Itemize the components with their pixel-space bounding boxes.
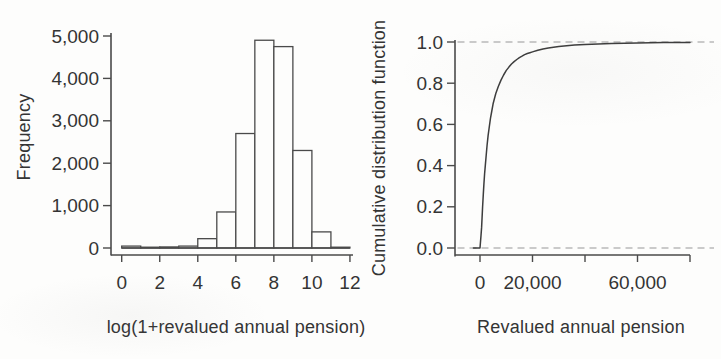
histogram-panel: 01,0002,0003,0004,0005,000024681012 Freq… [0, 0, 368, 359]
cdf-tick-labels: 0.00.20.40.60.81.0020,00060,000 [417, 32, 667, 294]
cdf-axes [447, 40, 690, 262]
y-tick-label: 1.0 [417, 32, 443, 53]
histogram-bar [198, 239, 217, 248]
x-tick-label: 6 [231, 272, 242, 293]
y-tick-label: 4,000 [51, 68, 99, 89]
y-tick-label: 0.2 [417, 196, 443, 217]
cdf-curve [473, 42, 690, 248]
x-tick-label: 8 [269, 272, 280, 293]
cdf-panel: 0.00.20.40.60.81.0020,00060,000 Cumulati… [368, 0, 721, 359]
cdf-reference-lines [458, 42, 715, 248]
y-tick-label: 0.4 [417, 155, 444, 176]
x-tick-label: 20,000 [503, 272, 561, 293]
histogram-bar [217, 212, 236, 248]
x-tick-label: 12 [339, 272, 360, 293]
y-tick-label: 0 [88, 238, 99, 259]
y-tick-label: 3,000 [51, 110, 99, 131]
x-tick-label: 0 [475, 272, 486, 293]
y-tick-label: 5,000 [51, 26, 99, 47]
x-tick-label: 10 [301, 272, 322, 293]
histogram-x-axis-title: log(1+revalued annual pension) [107, 317, 366, 338]
y-tick-label: 0.8 [417, 73, 443, 94]
cdf-x-axis-title: Revalued annual pension [477, 317, 685, 338]
y-tick-label: 1,000 [51, 195, 99, 216]
y-tick-label: 0.6 [417, 114, 443, 135]
histogram-bar [274, 47, 293, 248]
histogram-plot: 01,0002,0003,0004,0005,000024681012 [0, 0, 368, 359]
histogram-bar [255, 40, 274, 248]
histogram-bars [122, 40, 350, 248]
y-tick-label: 0.0 [417, 238, 443, 259]
histogram-bar [293, 150, 312, 248]
x-tick-label: 60,000 [608, 272, 666, 293]
histogram-tick-labels: 01,0002,0003,0004,0005,000024681012 [51, 26, 360, 294]
pension-distribution-figure: 01,0002,0003,0004,0005,000024681012 Freq… [0, 0, 721, 359]
x-tick-label: 0 [116, 272, 127, 293]
histogram-bar [236, 134, 255, 248]
y-tick-label: 2,000 [51, 153, 99, 174]
x-tick-label: 2 [154, 272, 165, 293]
cdf-y-axis-title: Cumulative distribution function [369, 20, 390, 277]
cdf-plot: 0.00.20.40.60.81.0020,00060,000 [368, 0, 721, 359]
histogram-y-axis-title: Frequency [14, 94, 35, 181]
histogram-bar [312, 232, 331, 248]
x-tick-label: 4 [192, 272, 203, 293]
